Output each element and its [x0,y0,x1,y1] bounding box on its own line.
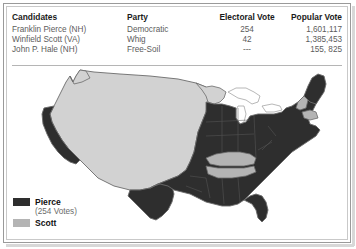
legend-label-scott: Scott [35,218,56,228]
cell-candidate: Franklin Pierce (NH) [12,24,127,34]
results-table: Candidates Party Electoral Vote Popular … [12,12,342,54]
cell-popular-vote: 1,601,117 [282,24,342,34]
table-row: Winfield Scott (VA) Whig 42 1,385,453 [12,34,342,44]
legend-sublabel-pierce-votes: (254 Votes) [35,207,77,217]
legend-item-scott: Scott [13,217,77,228]
legend-swatch-scott [13,219,30,227]
map-state-florida [244,194,268,222]
column-header-electoral-vote: Electoral Vote [212,12,282,24]
frame-shadow-right [352,6,355,246]
table-header-row: Candidates Party Electoral Vote Popular … [12,12,342,24]
map-state-massachusetts [302,110,318,120]
legend-item-pierce: Pierce [13,196,77,207]
cell-electoral-vote: --- [212,44,282,54]
table-row: John P. Hale (NH) Free-Soil --- 155, 825 [12,44,342,54]
cell-party: Whig [127,34,212,44]
cell-popular-vote: 1,385,453 [282,34,342,44]
cell-popular-vote: 155, 825 [282,44,342,54]
table-row: Franklin Pierce (NH) Democratic 254 1,60… [12,24,342,34]
column-header-popular-vote: Popular Vote [282,12,342,24]
cell-candidate: John P. Hale (NH) [12,44,127,54]
cell-party: Democratic [127,24,212,34]
map-legend: Pierce (254 Votes) Scott [13,196,77,228]
column-header-candidates: Candidates [12,12,127,24]
map-state-vermont [296,96,308,110]
cell-candidate: Winfield Scott (VA) [12,34,127,44]
election-results-figure: Candidates Party Electoral Vote Popular … [0,0,356,249]
cell-party: Free-Soil [127,44,212,54]
cell-electoral-vote: 42 [212,34,282,44]
map-feature-lake-erie-ontario [262,104,282,112]
legend-swatch-pierce [13,198,30,206]
map-feature-great-lakes [228,88,260,104]
column-header-party: Party [127,12,212,24]
frame-shadow-bottom [6,244,354,247]
cell-electoral-vote: 254 [212,24,282,34]
legend-label-pierce: Pierce [35,197,61,207]
